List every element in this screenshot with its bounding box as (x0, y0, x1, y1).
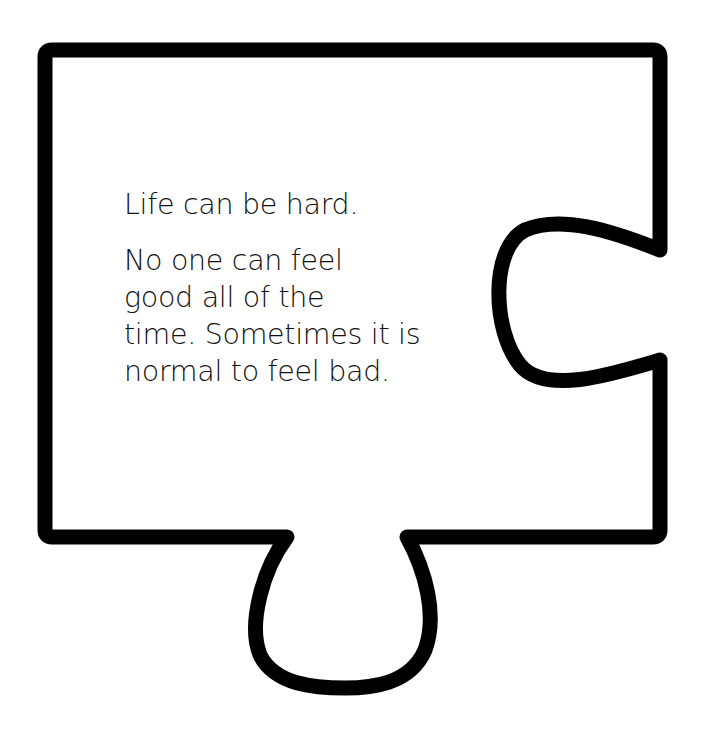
headline-text: Life can be hard. (124, 186, 504, 223)
body-line-4: normal to feel bad. (124, 353, 504, 390)
body-text: No one can feel good all of the time. So… (124, 242, 504, 390)
body-line-1: No one can feel (124, 242, 504, 279)
body-line-3: time. Sometimes it is (124, 316, 504, 353)
card-text: Life can be hard. No one can feel good a… (124, 186, 504, 390)
body-line-2: good all of the (124, 279, 504, 316)
